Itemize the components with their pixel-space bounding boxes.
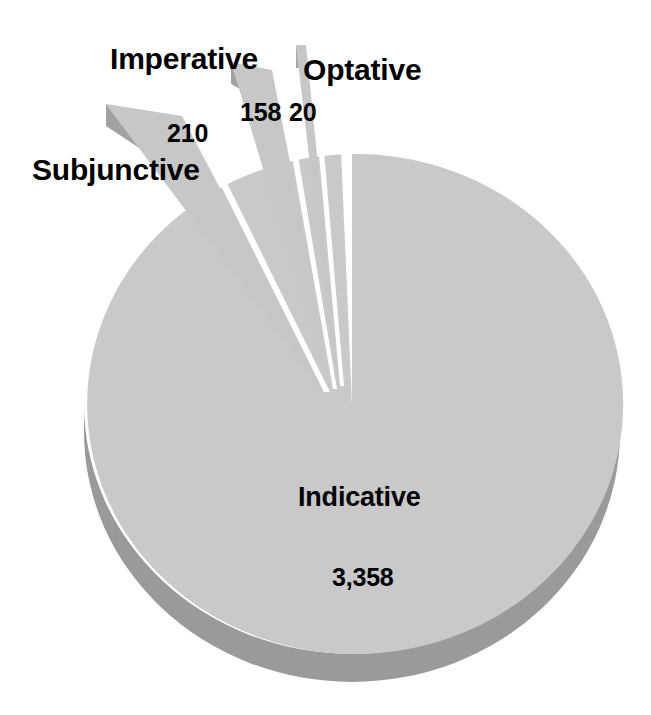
slice-value-optative: 20 — [289, 100, 316, 125]
slice-value-indicative: 3,358 — [332, 565, 394, 590]
slice-value-imperative: 158 — [240, 100, 281, 125]
slice-value-subjunctive: 210 — [167, 121, 208, 146]
slice-label-indicative: Indicative — [298, 484, 421, 511]
pie-chart-figure: Imperative Optative Subjunctive 210 158 … — [0, 0, 651, 715]
slice-label-subjunctive: Subjunctive — [32, 155, 200, 185]
slice-label-imperative: Imperative — [110, 44, 258, 74]
slice-label-optative: Optative — [303, 55, 421, 85]
pie-chart-graphic — [0, 0, 651, 715]
